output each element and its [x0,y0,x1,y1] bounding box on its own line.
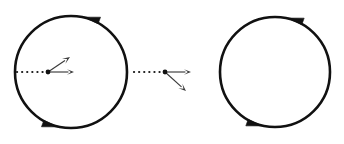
left-circle-top-arrowhead [84,17,100,24]
right-origin-dot [163,70,168,75]
right-circle-bottom-arrowhead [246,119,262,126]
diagram-svg [0,0,344,144]
left-vector-upright-arrowhead [62,57,70,64]
left-vector-group [46,57,74,75]
left-circle-bottom-arrowhead [41,120,57,127]
right-circle-outline [220,17,330,127]
right-circle-group [220,17,330,127]
right-vector-downright-shaft [165,72,181,87]
figure-canvas [0,0,344,144]
left-vector-upright-shaft [48,60,65,72]
left-origin-dot [46,70,51,75]
right-vector-group [163,69,191,91]
right-circle-top-arrowhead [288,18,304,25]
